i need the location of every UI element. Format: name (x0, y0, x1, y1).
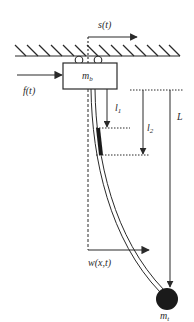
tip-mass-subscript: t (167, 315, 169, 322)
l2-subscript: 2 (150, 127, 154, 135)
l1-label: l1 (115, 103, 121, 115)
tip-mass-label: mt (160, 311, 169, 322)
base-mass-label: mb (82, 71, 93, 83)
ceiling-rail (15, 45, 180, 56)
displacement-label: s(t) (98, 20, 111, 30)
l2-label: l2 (147, 123, 153, 135)
base-mass-subscript: b (89, 75, 93, 83)
tip-mass (156, 288, 178, 310)
l2-dimension (96, 90, 184, 155)
deflection-label: w(x,t) (88, 258, 111, 268)
l1-subscript: 1 (118, 107, 122, 115)
force-label: f(t) (23, 86, 35, 96)
l1-dimension (96, 89, 130, 128)
piezo-patch (96, 128, 103, 155)
beam-diagram (0, 0, 194, 322)
total-length-label: L (177, 112, 183, 122)
